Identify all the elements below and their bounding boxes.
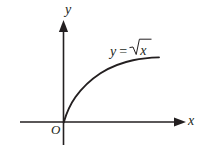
equation-lhs: y [110, 45, 116, 59]
y-axis-arrowhead [59, 20, 68, 32]
figure-canvas: y x O y = x [0, 0, 202, 151]
x-axis-arrowhead [174, 117, 186, 126]
origin-label: O [51, 123, 60, 136]
coordinate-graph [0, 0, 202, 151]
x-axis-label: x [188, 114, 194, 128]
equation-equals-sign: = [119, 45, 127, 59]
y-axis-label: y [65, 3, 71, 17]
square-root-expression: x [130, 38, 146, 59]
curve-equation-label: y = x [110, 39, 146, 59]
radical-sign-icon [130, 38, 152, 55]
sqrt-curve [64, 57, 159, 122]
